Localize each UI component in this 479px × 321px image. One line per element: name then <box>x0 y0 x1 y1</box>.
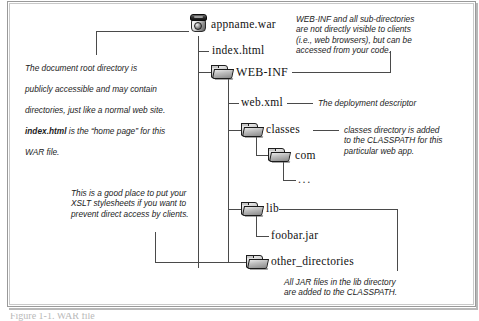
figure-war-file-structure: appname.war index.html WEB-INF web.xml c… <box>0 0 479 321</box>
callout-line-webinf-h <box>292 72 391 73</box>
tree-trunk-com <box>283 161 284 180</box>
tree-branch-index <box>198 51 209 52</box>
annotation-docroot-line3: directories, just like a normal web site… <box>25 105 165 115</box>
tree-node-appname-war[interactable]: appname.war <box>211 18 276 30</box>
otherdirs-folder-icon <box>246 255 269 270</box>
com-folder-icon <box>268 148 291 163</box>
figure-caption-crop: Figure 1-1. WAR file <box>10 313 160 321</box>
classes-folder-icon <box>241 123 264 138</box>
tree-trunk-line <box>198 36 199 268</box>
figure-caption: Figure 1-1. WAR file <box>10 313 95 321</box>
tree-trunk-webinf <box>228 78 229 262</box>
tree-node-ellipsis: ... <box>298 172 312 187</box>
tree-node-web-inf[interactable]: WEB-INF <box>236 65 288 80</box>
frame-shadow-bottom <box>9 308 478 310</box>
tree-node-classes[interactable]: classes <box>266 123 300 135</box>
tree-trunk-lib <box>256 215 257 236</box>
lib-folder-icon <box>241 202 264 217</box>
callout-line-xslt-v <box>155 232 156 262</box>
tree-branch-foobar <box>256 236 269 237</box>
callout-line-lib-v <box>397 209 398 271</box>
annotation-webinf: WEB-INF and all sub-directories are not … <box>296 14 472 56</box>
tree-node-foobar-jar[interactable]: foobar.jar <box>271 229 318 241</box>
tree-node-index-html[interactable]: index.html <box>212 44 265 56</box>
war-jar-icon <box>190 14 207 33</box>
annotation-docroot-line2: publicly accessible and may contain <box>25 84 157 94</box>
annotation-docroot-line1: The document root directory is <box>25 63 137 73</box>
annotation-classes: classes directory is added to the CLASSP… <box>344 125 474 156</box>
annotation-jars: All JAR files in the lib directory are a… <box>284 277 444 298</box>
webinf-folder-icon <box>211 65 234 80</box>
callout-line-docroot-v <box>96 31 97 55</box>
tree-branch-dots <box>283 180 296 181</box>
annotation-docroot-index-html: index.html <box>25 126 67 136</box>
callout-line-classes <box>313 130 339 131</box>
callout-line-lib-h <box>279 209 398 210</box>
tree-node-web-xml[interactable]: web.xml <box>241 96 283 108</box>
annotation-document-root: The document root directory is publicly … <box>25 53 195 157</box>
tree-branch-webxml <box>228 103 239 104</box>
annotation-webxml: The deployment descriptor <box>318 98 468 108</box>
callout-line-webxml <box>287 103 313 104</box>
frame-shadow-right <box>476 3 478 310</box>
tree-node-other-directories[interactable]: other_directories <box>271 255 354 267</box>
callout-line-docroot-h <box>96 31 189 32</box>
annotation-docroot-line5: WAR file. <box>25 147 59 157</box>
annotation-docroot-line4-rest: is the “home page” for this <box>67 126 166 136</box>
tree-branch-classes <box>228 130 242 131</box>
callout-line-xslt-h <box>155 262 248 263</box>
tree-node-com[interactable]: com <box>295 149 316 161</box>
tree-branch-webinf <box>198 72 212 73</box>
tree-node-lib[interactable]: lib <box>266 202 279 214</box>
tree-trunk-classes <box>256 136 257 155</box>
annotation-xslt: This is a good place to put your XSLT st… <box>71 188 231 219</box>
